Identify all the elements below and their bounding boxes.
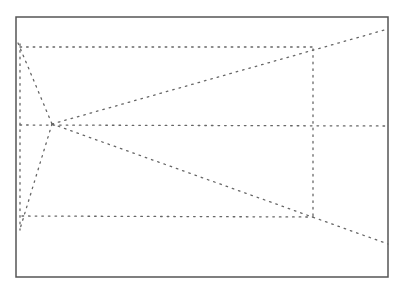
perspective-diagram: [0, 0, 409, 285]
upper-ray-line: [52, 29, 388, 124]
middle-horizontal-line: [20, 125, 388, 126]
diagram-frame: [16, 17, 388, 277]
bottom-horizontal-line: [22, 216, 313, 217]
upper-left-diagonal-line: [18, 43, 52, 124]
dotted-lines: [18, 29, 388, 244]
lower-ray-line: [52, 124, 388, 244]
lower-left-diagonal-line: [20, 124, 52, 229]
